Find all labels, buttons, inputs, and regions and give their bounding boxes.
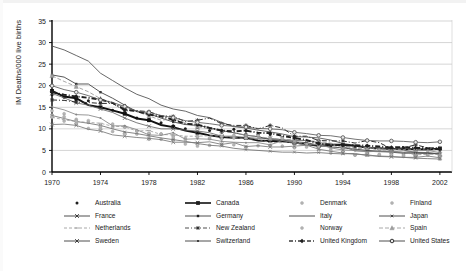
y-axis-tick-label: 0 <box>42 169 46 176</box>
x-axis-tick-label: 1974 <box>93 179 109 186</box>
legend-item-label: Sweden <box>95 235 119 247</box>
y-axis-tick-label: 25 <box>38 61 46 68</box>
dash-legend-glyph <box>62 222 92 234</box>
legend-marker-icon <box>183 235 213 247</box>
top-border-artifact <box>0 0 466 3</box>
series-marker <box>184 142 187 145</box>
legend-row: NetherlandsNew ZealandNorwaySpain <box>0 222 466 234</box>
legend-item-label: Germany <box>216 210 243 222</box>
dot-sm-legend-glyph <box>183 235 213 247</box>
series-marker <box>87 119 90 122</box>
series-marker <box>148 134 150 136</box>
legend-item-label: Netherlands <box>95 222 131 234</box>
legend-marker-icon <box>287 235 317 247</box>
legend-marker-icon <box>183 210 213 222</box>
chart-screenshot: IM Deaths/000 live births 05101520253035… <box>0 0 466 271</box>
square-sm-legend-glyph <box>183 210 213 222</box>
legend-item-label: United Kingdom <box>320 235 367 247</box>
chart-plot-container: IM Deaths/000 live births 05101520253035… <box>0 6 466 196</box>
line-chart-svg: 0510152025303519701974197819821986199019… <box>0 6 466 196</box>
y-axis-tick-label: 5 <box>42 147 46 154</box>
series-marker <box>232 134 235 137</box>
legend-item-label: Spain <box>410 222 427 234</box>
x-axis-tick-label: 1990 <box>287 179 303 186</box>
dot-light-legend-glyph <box>287 197 317 209</box>
legend-marker-icon <box>62 222 92 234</box>
series-marker <box>317 134 321 138</box>
series-marker <box>99 125 102 128</box>
series-marker <box>51 106 53 108</box>
series-marker <box>220 124 224 128</box>
series-marker <box>75 120 78 123</box>
series-marker <box>74 90 78 94</box>
y-axis-tick-label: 30 <box>38 39 46 46</box>
series-marker <box>123 116 127 120</box>
series-marker <box>269 144 271 146</box>
series-marker <box>171 116 175 120</box>
series-marker <box>124 125 126 127</box>
series-marker <box>123 105 127 109</box>
legend-row: AustraliaCanadaDenmarkFinland <box>0 197 466 209</box>
x-legend-glyph <box>62 235 92 247</box>
legend-marker-icon <box>287 210 317 222</box>
series-marker <box>74 100 78 104</box>
series-marker <box>390 139 394 143</box>
tri-light-legend-glyph <box>377 222 407 234</box>
legend-item-label: France <box>95 210 116 222</box>
legend-row: FranceGermanyItalyJapan <box>0 210 466 222</box>
series-marker <box>87 99 90 102</box>
legend-marker-icon <box>62 210 92 222</box>
dot-light-legend-glyph <box>287 222 317 234</box>
series-marker <box>172 132 174 134</box>
series-marker <box>147 111 151 115</box>
legend-item-label: Denmark <box>320 197 347 209</box>
series-marker <box>402 154 405 157</box>
y-axis-tick-label: 10 <box>38 125 46 132</box>
y-axis-tick-label: 15 <box>38 104 46 111</box>
y-axis-tick-label: 35 <box>38 18 46 25</box>
legend-marker-icon <box>377 210 407 222</box>
legend-item-label: Norway <box>320 222 342 234</box>
x-axis-tick-label: 2002 <box>432 179 448 186</box>
legend-item-label: Australia <box>95 197 121 209</box>
legend-marker-icon <box>62 235 92 247</box>
legend-item-label: Switzerland <box>216 235 250 247</box>
legend-marker-icon <box>183 197 213 209</box>
square-legend-glyph <box>183 197 213 209</box>
series-marker <box>50 84 54 88</box>
legend-item-label: Canada <box>216 197 239 209</box>
series-marker <box>75 114 77 116</box>
series-marker <box>232 128 235 131</box>
series-marker <box>438 140 442 144</box>
x-axis-tick-label: 1994 <box>335 179 351 186</box>
legend-marker-icon <box>377 197 407 209</box>
series-marker <box>208 129 211 132</box>
series-marker <box>196 121 200 125</box>
series-marker <box>220 135 223 138</box>
circle-legend-glyph <box>377 235 407 247</box>
series-marker <box>63 112 66 115</box>
series-marker <box>414 140 418 144</box>
dot-legend-glyph <box>62 197 92 209</box>
dot-light-legend-glyph <box>377 197 407 209</box>
series-marker <box>50 98 54 102</box>
series-marker <box>244 125 248 129</box>
x-sm-legend-glyph <box>377 210 407 222</box>
series-marker <box>293 131 297 135</box>
x-legend-glyph <box>62 210 92 222</box>
series-marker <box>342 149 344 151</box>
line-only-legend-glyph <box>287 210 317 222</box>
chart-legend: AustraliaCanadaDenmarkFinlandFranceGerma… <box>0 197 466 253</box>
series-marker <box>111 130 114 133</box>
x-axis-tick-label: 1970 <box>44 179 60 186</box>
x-axis-tick-label: 1982 <box>190 179 206 186</box>
legend-item-label: Italy <box>320 210 332 222</box>
series-marker <box>221 140 223 142</box>
legend-marker-icon <box>287 197 317 209</box>
series-marker <box>390 150 392 152</box>
series-marker <box>51 109 54 112</box>
x-axis-tick-label: 1978 <box>141 179 157 186</box>
diamond-legend-glyph <box>287 235 317 247</box>
series-marker <box>293 142 295 144</box>
series-marker <box>99 91 101 93</box>
